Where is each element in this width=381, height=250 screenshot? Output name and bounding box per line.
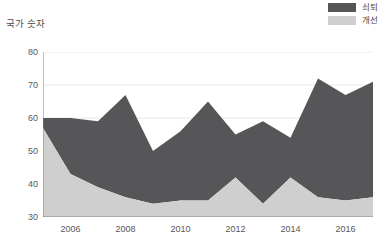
- y-axis-tick-labels: 304050607080: [8, 52, 38, 217]
- legend-item-decline[interactable]: 쇠퇴: [328, 3, 378, 12]
- x-tick-label-2012: 2012: [225, 224, 245, 234]
- x-tick-label-2006: 2006: [60, 224, 80, 234]
- y-tick-label-70: 70: [12, 81, 38, 90]
- y-tick-label-60: 60: [12, 114, 38, 123]
- y-tick-label-30: 30: [12, 213, 38, 222]
- area-chart: 국가 숫자 쇠퇴 개선 304050607080 200620082010201…: [0, 0, 381, 250]
- y-axis-title: 국가 숫자: [6, 16, 46, 30]
- x-tick-label-2014: 2014: [280, 224, 300, 234]
- legend-label-decline: 쇠퇴: [362, 3, 378, 12]
- legend-swatch-decline: [328, 3, 356, 12]
- chart-legend: 쇠퇴 개선: [328, 3, 378, 25]
- x-tick-label-2016: 2016: [335, 224, 355, 234]
- x-tick-label-2010: 2010: [170, 224, 190, 234]
- y-tick-label-80: 80: [12, 48, 38, 57]
- legend-label-improvement: 개선: [362, 16, 378, 25]
- plot-area: [43, 52, 373, 217]
- legend-swatch-improvement: [328, 16, 356, 25]
- legend-item-improvement[interactable]: 개선: [328, 16, 378, 25]
- y-tick-label-50: 50: [12, 147, 38, 156]
- x-axis-tick-labels: 200620082010201220142016: [43, 224, 373, 238]
- x-tick-label-2008: 2008: [115, 224, 135, 234]
- plot-svg: [43, 52, 373, 217]
- y-tick-label-40: 40: [12, 180, 38, 189]
